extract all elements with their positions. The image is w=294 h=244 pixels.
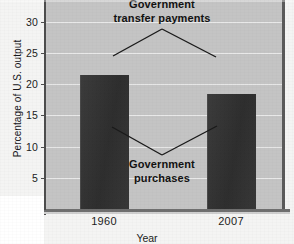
y-axis-line xyxy=(44,0,46,215)
y-tick-mark-20 xyxy=(41,84,46,85)
annotation-purchases-line1: Government xyxy=(92,158,232,172)
top-edge-fade xyxy=(0,0,294,2)
annotation-transfer-line2: transfer payments xyxy=(82,12,242,26)
x-axis-title: Year xyxy=(0,232,294,244)
annotation-government-purchases: Government purchases xyxy=(92,158,232,185)
bar-1960 xyxy=(80,75,129,209)
gridline-25 xyxy=(46,53,282,54)
y-tick-mark-25 xyxy=(41,53,46,54)
y-tick-mark-15 xyxy=(41,115,46,116)
annotation-purchases-line2: purchases xyxy=(92,172,232,186)
bar-2007 xyxy=(207,94,256,209)
x-tick-label-2007: 2007 xyxy=(196,215,266,227)
y-axis-title: Percentage of U.S. output xyxy=(12,9,23,189)
page-corner xyxy=(0,196,44,244)
x-tick-label-1960: 1960 xyxy=(69,215,139,227)
bar-chart-figure: 35302520151050 19602007 Percentage of U.… xyxy=(0,0,294,244)
annotation-transfer-payments: Government transfer payments xyxy=(82,0,242,25)
y-tick-mark-30 xyxy=(41,22,46,23)
y-tick-mark-10 xyxy=(41,147,46,148)
y-tick-mark-5 xyxy=(41,178,46,179)
x-axis-line-shadow xyxy=(40,212,290,214)
